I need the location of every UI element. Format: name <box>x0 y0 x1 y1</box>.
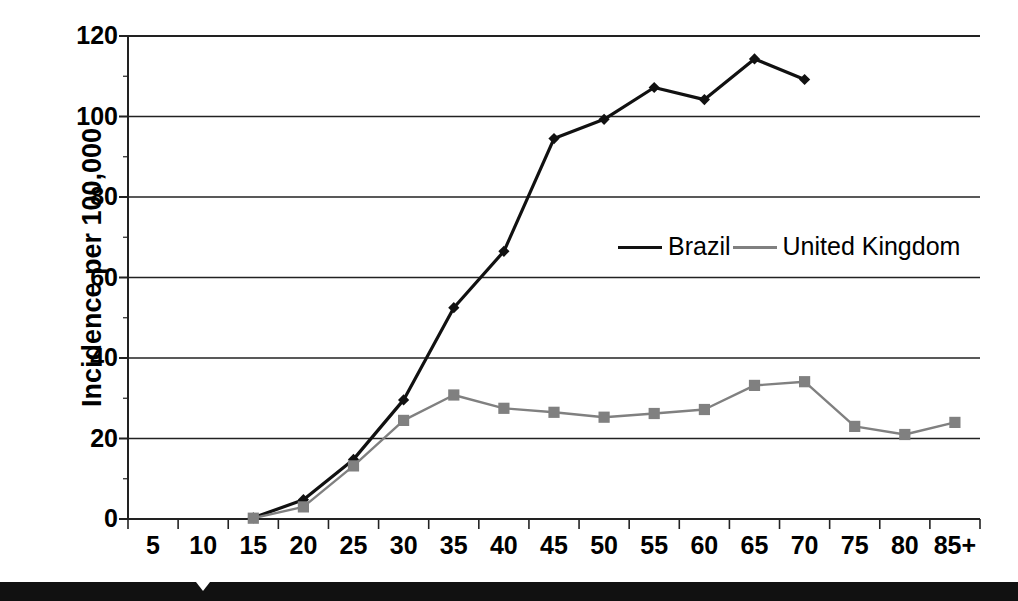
y-tick-label: 100 <box>76 104 118 129</box>
legend-label-brazil: Brazil <box>662 232 733 261</box>
y-tick-label: 40 <box>90 345 118 370</box>
scan-edge-notch <box>196 582 210 591</box>
y-tick-label: 0 <box>104 506 118 531</box>
y-tick-label: 80 <box>90 184 118 209</box>
gridlines <box>128 36 980 519</box>
scan-edge-bar <box>0 582 1018 601</box>
legend-entry-brazil: Brazil <box>618 232 733 261</box>
legend-line-brazil <box>618 246 662 249</box>
legend-entry-united-kingdom: United Kingdom <box>733 232 963 261</box>
series-brazil <box>248 53 811 523</box>
chart-legend: Brazil United Kingdom <box>618 232 962 261</box>
legend-label-united-kingdom: United Kingdom <box>777 232 963 261</box>
series-united-kingdom <box>248 376 961 524</box>
incidence-line-chart: Incidence per 100,000 020406080100120 51… <box>0 0 1018 601</box>
legend-swatch-united-kingdom <box>733 238 777 256</box>
y-tick-label: 20 <box>90 426 118 451</box>
y-tick-label: 120 <box>76 23 118 48</box>
legend-line-united-kingdom <box>733 246 777 249</box>
axis-lines <box>119 36 980 529</box>
plot-area <box>0 0 1018 601</box>
legend-swatch-brazil <box>618 238 662 256</box>
y-tick-label: 60 <box>90 265 118 290</box>
x-tick-label: 85+ <box>915 533 995 558</box>
